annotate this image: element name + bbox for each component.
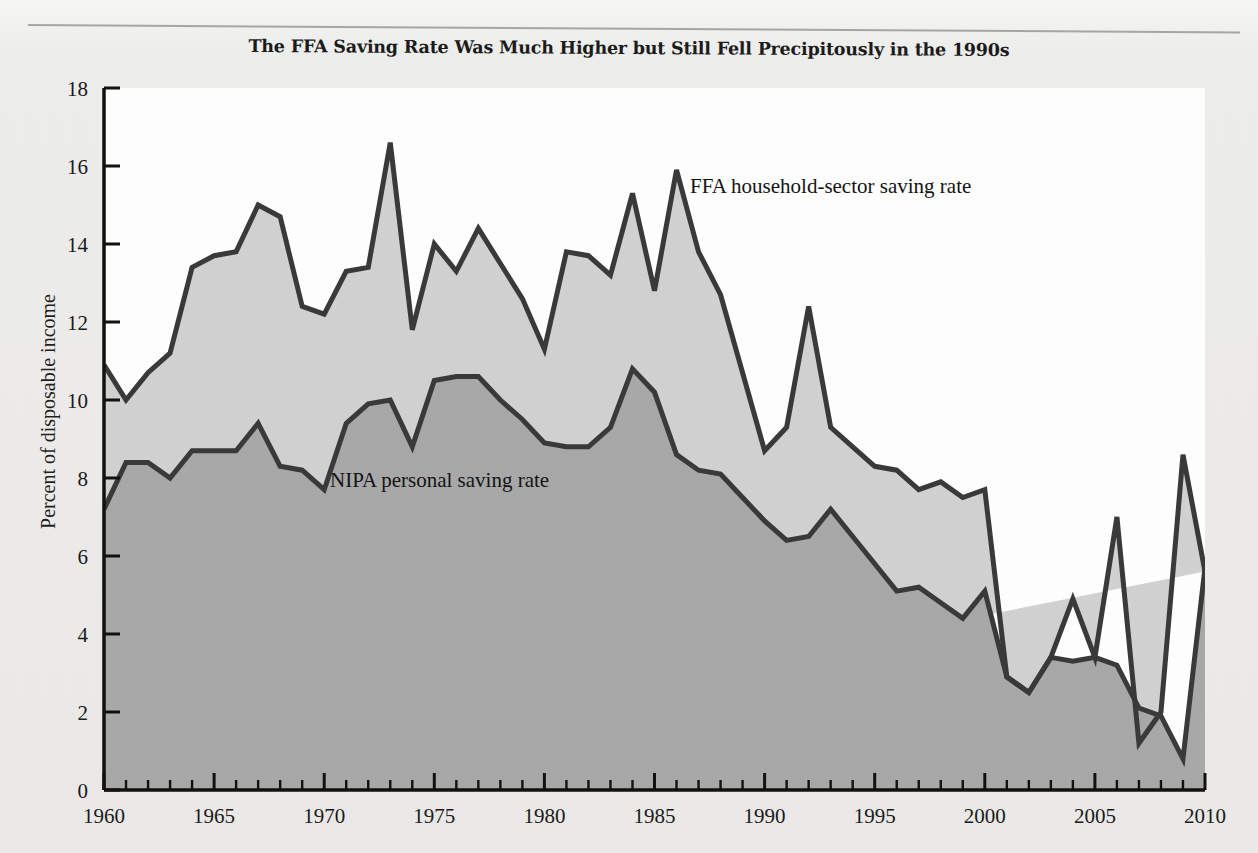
x-axis-tick-label: 1965 [193,804,235,828]
y-axis-tick-label: 14 [67,233,89,257]
x-axis-tick-label: 1985 [634,804,676,828]
x-axis-tick-label: 1980 [523,804,565,828]
x-axis-tick-label: 1975 [413,804,455,828]
y-axis-tick-label: 2 [78,701,89,725]
x-axis-tick-label: 1990 [744,804,786,828]
saving-rate-line-chart: 0246810121416181960196519701975198019851… [0,0,1258,853]
x-axis-tick-label: 1960 [83,804,125,828]
y-axis-tick-label: 8 [78,467,89,491]
x-axis-tick-label: 2000 [964,804,1006,828]
y-axis-tick-label: 16 [67,155,88,179]
x-axis-tick-label: 1995 [854,804,896,828]
y-axis-tick-label: 6 [78,545,89,569]
figure-page: The FFA Saving Rate Was Much Higher but … [0,0,1258,853]
y-axis-tick-label: 18 [67,77,88,101]
y-axis-tick-label: 12 [67,311,88,335]
x-axis-tick-label: 2005 [1074,804,1116,828]
y-axis-tick-label: 0 [78,779,89,803]
chart-plot-area: 0246810121416181960196519701975198019851… [0,0,1258,853]
x-axis-tick-label: 1970 [303,804,345,828]
x-axis-tick-label: 2010 [1184,804,1226,828]
series-annotation-ffa: FFA household-sector saving rate [690,174,971,198]
series-annotation-nipa: NIPA personal saving rate [330,468,549,492]
y-axis-tick-label: 4 [78,623,89,647]
y-axis-tick-label: 10 [67,389,88,413]
